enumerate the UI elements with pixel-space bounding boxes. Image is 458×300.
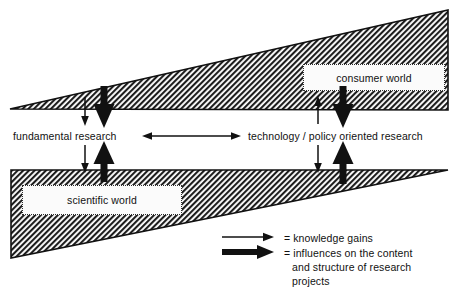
legend-influences-text-line-3: projects bbox=[292, 275, 330, 287]
legend-influences-text-line-2: and structure of research bbox=[292, 261, 411, 273]
research-spectrum-arrow bbox=[142, 132, 241, 139]
arrow-influence-upper-right bbox=[333, 86, 354, 128]
arrow-influence-upper-left bbox=[94, 86, 115, 128]
arrow-knowledge-gain-lower-left bbox=[81, 145, 89, 173]
diagram-canvas: consumer world scientific world bbox=[0, 0, 458, 300]
label-fundamental-research: fundamental research bbox=[13, 130, 117, 142]
legend-thin-arrow bbox=[222, 233, 274, 241]
arrow-knowledge-gain-upper-left bbox=[81, 97, 89, 126]
legend-thick-arrow bbox=[222, 245, 274, 259]
label-technology-policy-oriented-research: technology / policy oriented research bbox=[248, 130, 423, 142]
arrow-knowledge-gain-lower-right bbox=[314, 145, 322, 173]
legend-knowledge-gains-text: = knowledge gains bbox=[284, 232, 373, 244]
arrow-knowledge-gain-upper-right bbox=[314, 96, 322, 124]
arrow-influence-lower-left bbox=[94, 141, 115, 182]
arrow-influence-lower-right bbox=[333, 141, 354, 184]
legend-influences-text-line-1: = influences on the content bbox=[284, 247, 413, 259]
